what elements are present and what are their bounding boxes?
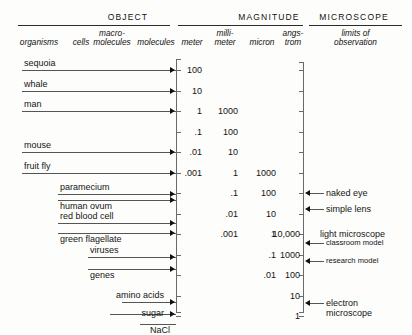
magnitude-value-angstrom: 100 — [240, 271, 300, 280]
object-arrow-line — [22, 70, 176, 71]
magnitude-value-angstrom: 1 — [240, 312, 300, 321]
object-label: man — [24, 100, 42, 109]
object-arrow-line — [122, 302, 176, 303]
microscope-tick — [299, 111, 304, 112]
microscope-arrow-line — [308, 243, 324, 244]
microscope-tick — [299, 173, 304, 174]
object-arrow-head — [170, 197, 175, 203]
object-arrow-line — [22, 111, 176, 112]
microscope-tick — [299, 91, 304, 92]
object-arrow-head — [170, 266, 175, 272]
object-label: viruses — [90, 246, 119, 255]
magnitude-tick — [176, 275, 181, 276]
magnitude-tick — [176, 316, 181, 317]
subheader-angstrom-line2: trom — [274, 38, 312, 47]
microscope-arrow-head — [305, 240, 310, 246]
microscope-arrow-head — [305, 190, 310, 196]
microscope-arrow-line — [308, 261, 324, 262]
object-arrow-line — [58, 194, 176, 195]
object-label: paramecium — [60, 183, 110, 192]
magnitude-tick — [176, 255, 181, 256]
object-label: sequoia — [24, 59, 56, 68]
object-arrow-head — [170, 88, 175, 94]
object-arrow-head — [170, 230, 175, 236]
rule-magnitude — [178, 25, 303, 26]
magnitude-value-micron: 100 — [216, 189, 276, 198]
object-arrow-head — [170, 220, 175, 226]
magnitude-value-micron: 10 — [216, 210, 276, 219]
object-arrow-head — [170, 311, 175, 317]
microscope-arrow-line — [308, 193, 324, 194]
magnitude-axis-bottom-cap — [176, 312, 181, 313]
magnitude-tick — [176, 296, 181, 297]
object-arrow-head — [170, 299, 175, 305]
microscope-tick — [299, 70, 304, 71]
object-label: green flagellate — [60, 235, 122, 244]
group-title-microscope: MICROSCOPE — [302, 12, 406, 22]
microscope-limit-label: classroom model — [326, 238, 383, 248]
object-label: fruit fly — [24, 162, 51, 171]
subheader-limits-line2: observation — [309, 38, 402, 47]
microscope-tick — [299, 214, 304, 215]
rule-object — [18, 25, 170, 26]
microscope-limit-label: electron — [326, 298, 358, 308]
magnitude-value-angstrom: 10 — [240, 292, 300, 301]
object-label: whale — [24, 80, 48, 89]
object-label: NaCl — [118, 326, 170, 335]
microscope-axis-top-cap — [299, 62, 304, 63]
object-arrow-head — [170, 67, 175, 73]
object-arrow-head — [170, 170, 175, 176]
magnitude-value-angstrom: 1000 — [240, 251, 300, 260]
object-arrow-line — [58, 223, 176, 224]
magnitude-value-millimeter: 100 — [178, 128, 238, 137]
object-label: mouse — [24, 141, 51, 150]
subheader-organisms: organisms — [8, 38, 70, 47]
microscope-limit-label: naked eye — [326, 188, 368, 198]
microscope-limit-label: research model — [326, 256, 378, 266]
object-arrow-line — [22, 152, 176, 153]
microscope-arrow-line — [308, 303, 324, 304]
object-arrow-head — [170, 108, 175, 114]
magnitude-value-angstrom: 10,000 — [240, 230, 300, 239]
rule-microscope — [309, 25, 402, 26]
object-arrow-line — [22, 173, 176, 174]
object-arrow-line — [22, 91, 176, 92]
magnitude-value-millimeter: 10 — [178, 148, 238, 157]
microscope-limit-label: microscope — [326, 308, 372, 318]
object-arrow-line — [88, 257, 176, 258]
object-arrow-head — [170, 149, 175, 155]
magnitude-axis-top-cap — [176, 59, 181, 60]
object-arrow-head — [170, 254, 175, 260]
magnitude-value-millimeter: 1000 — [178, 107, 238, 116]
object-label: amino acids — [60, 291, 164, 300]
object-label: sugar — [60, 309, 164, 318]
microscope-arrow-head — [305, 300, 310, 306]
magnitude-value-micron: 1000 — [216, 169, 276, 178]
microscope-arrow-line — [308, 209, 324, 210]
microscope-limit-label: simple lens — [326, 204, 371, 214]
microscope-tick — [299, 152, 304, 153]
microscope-tick — [299, 132, 304, 133]
object-label: genes — [90, 271, 115, 280]
microscope-tick — [299, 193, 304, 194]
object-label: human ovum — [60, 202, 112, 211]
microscope-arrow-head — [305, 206, 310, 212]
microscope-arrow-head — [305, 258, 310, 264]
object-label: red blood cell — [60, 212, 114, 221]
